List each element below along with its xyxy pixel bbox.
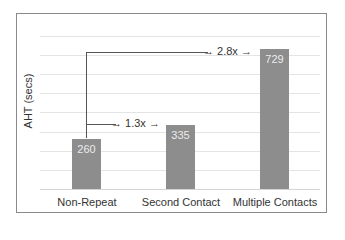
bar-non-repeat: 260 <box>72 139 101 189</box>
annotation-1-3x: → 1.3x → <box>111 117 160 129</box>
connector-vertical <box>86 52 87 138</box>
x-label-non-repeat: Non-Repeat <box>37 196 137 208</box>
annotation-2-8x: → 2.8x → <box>203 45 252 57</box>
y-axis-label: AHT (secs) <box>22 71 34 131</box>
x-label-second-contact: Second Contact <box>131 196 231 208</box>
bar-value-label: 260 <box>72 143 101 155</box>
bar-value-label: 729 <box>260 53 289 65</box>
x-label-multiple-contacts: Multiple Contacts <box>225 196 325 208</box>
bar-value-label: 335 <box>166 129 195 141</box>
connector-upper <box>86 52 208 53</box>
bar-second-contact: 335 <box>166 125 195 189</box>
bar-multiple-contacts: 729 <box>260 49 289 189</box>
